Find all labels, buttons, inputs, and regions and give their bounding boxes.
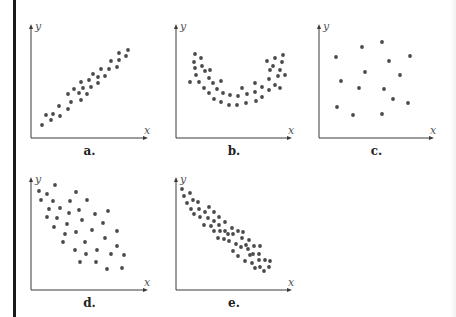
data-point	[200, 64, 204, 68]
y-axis-label: y	[179, 20, 187, 33]
data-point	[244, 101, 248, 105]
data-point	[260, 85, 264, 89]
data-point	[278, 86, 282, 90]
data-point	[79, 80, 83, 84]
data-point	[206, 216, 210, 220]
data-point	[241, 230, 245, 234]
data-point	[283, 73, 287, 77]
data-point	[115, 244, 119, 248]
data-point	[226, 232, 230, 236]
data-point	[80, 218, 84, 222]
data-point	[216, 236, 220, 240]
x-axis-label: x	[144, 124, 151, 137]
data-point	[265, 59, 269, 63]
data-point	[280, 60, 284, 64]
data-point	[212, 210, 216, 214]
y-axis-label: y	[34, 173, 42, 186]
data-point	[96, 75, 100, 79]
x-axis-label: x	[288, 276, 295, 289]
data-point	[193, 66, 197, 70]
data-point	[212, 219, 216, 223]
data-point	[188, 191, 192, 195]
data-point	[382, 87, 386, 91]
data-point	[193, 52, 197, 56]
data-point	[180, 187, 184, 191]
data-point	[276, 74, 280, 78]
data-point	[115, 65, 119, 69]
data-point	[95, 248, 99, 252]
data-point	[93, 212, 97, 216]
data-point	[191, 198, 195, 202]
data-point	[51, 112, 55, 116]
data-point	[234, 242, 238, 246]
data-point	[51, 199, 55, 203]
data-point	[391, 97, 395, 101]
data-point	[267, 77, 271, 81]
data-point	[236, 229, 240, 233]
y-axis-arrow-icon	[317, 24, 321, 29]
data-point	[53, 183, 57, 187]
data-point	[250, 261, 254, 265]
data-point	[223, 229, 227, 233]
data-point	[47, 207, 51, 211]
data-point	[257, 252, 261, 256]
data-point	[239, 245, 243, 249]
data-point	[77, 91, 81, 95]
data-point	[251, 252, 255, 256]
data-point	[267, 88, 271, 92]
data-point	[78, 260, 82, 264]
panel-label: e.	[228, 296, 240, 310]
x-axis-label: x	[144, 276, 151, 289]
data-point	[273, 56, 277, 60]
data-point	[115, 229, 119, 233]
data-point	[99, 67, 103, 71]
data-point	[253, 81, 257, 85]
data-point	[101, 221, 105, 225]
data-point	[52, 225, 56, 229]
data-point	[58, 206, 62, 210]
data-point	[81, 86, 85, 90]
data-point	[197, 207, 201, 211]
data-point	[252, 244, 256, 248]
data-point	[72, 87, 76, 91]
data-point	[91, 72, 95, 76]
data-point	[263, 258, 267, 262]
data-point	[380, 40, 384, 44]
data-point	[73, 248, 77, 252]
data-point	[363, 70, 367, 74]
data-point	[253, 266, 257, 270]
axis-lines	[176, 27, 289, 138]
data-point	[262, 269, 266, 273]
data-point	[69, 100, 73, 104]
data-point	[79, 98, 83, 102]
axis-lines	[31, 27, 145, 138]
data-point	[37, 189, 41, 193]
panel-a: yxa.	[29, 20, 151, 158]
panel-label: d.	[83, 296, 96, 310]
data-point	[49, 118, 53, 122]
data-point	[408, 54, 412, 58]
data-point	[90, 228, 94, 232]
panel-label: c.	[371, 144, 382, 158]
data-point	[219, 79, 223, 83]
data-point	[387, 59, 391, 63]
data-point	[273, 83, 277, 87]
data-point	[55, 216, 59, 220]
panel-c: yxc.	[317, 20, 437, 158]
panel-e: yxe.	[174, 173, 295, 310]
data-point	[211, 81, 215, 85]
data-point	[61, 240, 65, 244]
data-point	[89, 85, 93, 89]
data-point	[244, 243, 248, 247]
data-point	[189, 207, 193, 211]
data-point	[96, 81, 100, 85]
data-point	[197, 80, 201, 84]
data-point	[351, 113, 355, 117]
data-point	[45, 192, 49, 196]
data-point	[258, 265, 262, 269]
scatter-plot-figure: yxa. yxb. yxc. yxd. yxe.	[0, 0, 456, 317]
data-point	[219, 100, 223, 104]
data-point	[57, 104, 61, 108]
data-point	[67, 211, 71, 215]
data-point	[74, 190, 78, 194]
